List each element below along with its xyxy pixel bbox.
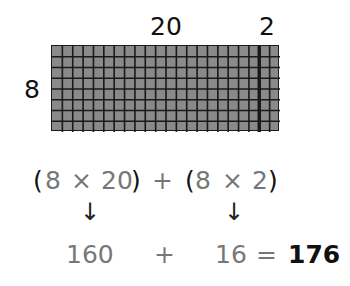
total-product: 176 xyxy=(288,242,340,267)
down-arrow-icon: ↓ xyxy=(224,200,244,224)
plus-sign-1: + xyxy=(152,168,173,193)
factor-8-b: 8 xyxy=(195,168,211,193)
factor-2: 2 xyxy=(252,168,268,193)
area-grid xyxy=(51,45,279,131)
paren-open-2: ( xyxy=(185,168,195,193)
paren-close-2: ) xyxy=(268,168,278,193)
factor-20: 20 xyxy=(101,168,133,193)
down-arrow-icon: ↓ xyxy=(80,200,100,224)
paren-open-1: ( xyxy=(33,168,43,193)
plus-sign-2: + xyxy=(154,242,175,267)
partial-product-16: 16 xyxy=(215,242,247,267)
equals-sign: = xyxy=(256,242,277,267)
partial-product-160: 160 xyxy=(66,242,114,267)
label-width-20: 20 xyxy=(150,14,182,39)
label-width-2: 2 xyxy=(259,14,275,39)
paren-close-1: ) xyxy=(131,168,141,193)
label-height-8: 8 xyxy=(24,77,40,102)
factor-8-a: 8 xyxy=(45,168,61,193)
grid-lines xyxy=(52,46,280,132)
times-sign-1: × xyxy=(71,168,92,193)
times-sign-2: × xyxy=(222,168,243,193)
